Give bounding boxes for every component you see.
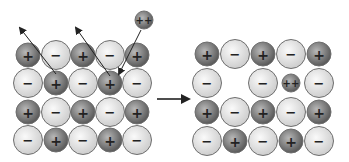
ion-substitution-diagram: +−+−+−+−+−+−+−+−+−+−++ +−+−+−−++−+−+−+−+…: [0, 0, 349, 162]
right-ion-r1c1: +: [195, 42, 219, 66]
right-ion-r4c4: +: [279, 129, 303, 153]
minus-sign-icon: −: [78, 133, 89, 148]
right-ion-r3c3: +: [251, 100, 275, 124]
right-ion-r3c1: +: [195, 100, 219, 124]
plus-sign-icon: +: [313, 47, 325, 63]
left-ion-r2c4: +: [98, 71, 122, 95]
left-ion-r1c4: −: [96, 41, 125, 70]
lattice-diagram-canvas: +−+−+−+−+−+−+−+−+−+−++ +−+−+−−++−+−+−+−+…: [0, 0, 349, 162]
left-ion-r3c3: +: [71, 100, 95, 124]
minus-sign-icon: −: [230, 105, 241, 120]
left-ion-r3c2: −: [42, 98, 71, 127]
right-ion-r3c2: −: [221, 98, 250, 127]
plus-sign-icon: +: [201, 105, 213, 121]
plus-sign-icon: +: [229, 134, 241, 150]
plus-sign-icon: +: [285, 134, 297, 150]
right-ion-r4c2: +: [223, 129, 247, 153]
left-ion-r2c5: −: [123, 69, 152, 98]
right-ion-r2c3: −: [249, 69, 278, 98]
minus-sign-icon: −: [286, 47, 297, 62]
left-ion-r2c1: −: [14, 69, 43, 98]
left-ion-r3c1: +: [16, 100, 40, 124]
plus-sign-icon: +: [22, 105, 34, 121]
left-ion-r1c2: −: [42, 41, 71, 70]
plus-sign-icon: +: [104, 76, 116, 92]
minus-sign-icon: −: [202, 76, 213, 91]
left-ion-r4c5: −: [123, 126, 152, 155]
right-ion-r1c5: +: [307, 42, 331, 66]
left-ion-r4c1: −: [14, 126, 43, 155]
minus-sign-icon: −: [258, 76, 269, 91]
minus-sign-icon: −: [314, 134, 325, 149]
left-ion-r4c4: +: [98, 128, 122, 152]
right-ion-r3c5: +: [307, 100, 331, 124]
plus-sign-icon: +: [131, 105, 143, 121]
left-lattice-before: +−+−+−+−+−+−+−+−+−+−++: [14, 11, 154, 155]
right-ion-r2c1: −: [193, 69, 222, 98]
minus-sign-icon: −: [23, 133, 34, 148]
left-ion-r1c1: +: [16, 43, 40, 67]
right-ion-r4c5: −: [305, 127, 334, 156]
right-lattice-after: +−+−+−−++−+−+−+−+−+−: [193, 40, 334, 156]
minus-sign-icon: −: [78, 76, 89, 91]
plus-sign-icon: +: [201, 47, 213, 63]
right-ion-r2c4: ++: [282, 74, 300, 92]
plus-sign-icon: +: [77, 105, 89, 121]
minus-sign-icon: −: [202, 134, 213, 149]
double-plus-sign-icon: ++: [283, 78, 300, 89]
minus-sign-icon: −: [230, 47, 241, 62]
minus-sign-icon: −: [51, 105, 62, 120]
right-ion-r4c1: −: [193, 127, 222, 156]
double-plus-sign-icon: ++: [136, 15, 153, 26]
minus-sign-icon: −: [314, 76, 325, 91]
left-ion-r4c2: +: [44, 128, 68, 152]
right-ion-r1c3: +: [251, 42, 275, 66]
left-ion-r1c3: +: [71, 43, 95, 67]
minus-sign-icon: −: [23, 76, 34, 91]
plus-sign-icon: +: [50, 133, 62, 149]
plus-sign-icon: +: [131, 48, 143, 64]
minus-sign-icon: −: [105, 105, 116, 120]
plus-sign-icon: +: [50, 76, 62, 92]
right-ion-r2c5: −: [305, 69, 334, 98]
minus-sign-icon: −: [51, 48, 62, 63]
plus-sign-icon: +: [77, 48, 89, 64]
plus-sign-icon: +: [257, 47, 269, 63]
incoming-divalent-ion: ++: [135, 11, 153, 29]
plus-sign-icon: +: [22, 48, 34, 64]
left-ion-r3c4: −: [96, 98, 125, 127]
minus-sign-icon: −: [132, 133, 143, 148]
plus-sign-icon: +: [313, 105, 325, 121]
left-ion-r4c3: −: [69, 126, 98, 155]
minus-sign-icon: −: [105, 48, 116, 63]
right-ion-r1c2: −: [221, 40, 250, 69]
right-ion-r4c3: −: [249, 127, 278, 156]
minus-sign-icon: −: [258, 134, 269, 149]
minus-sign-icon: −: [286, 105, 297, 120]
left-ion-r2c3: −: [69, 69, 98, 98]
plus-sign-icon: +: [257, 105, 269, 121]
right-ion-r3c4: −: [277, 98, 306, 127]
plus-sign-icon: +: [104, 133, 116, 149]
left-ion-r3c5: +: [125, 100, 149, 124]
left-ion-r2c2: +: [44, 71, 68, 95]
right-ion-r1c4: −: [277, 40, 306, 69]
minus-sign-icon: −: [132, 76, 143, 91]
